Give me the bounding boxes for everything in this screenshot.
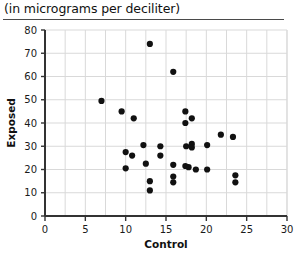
x-tick-label: 30 — [281, 224, 294, 235]
data-point — [170, 162, 176, 168]
data-point — [119, 108, 125, 114]
x-tick-label: 10 — [119, 224, 132, 235]
data-point — [193, 166, 199, 172]
data-point — [123, 165, 129, 171]
y-tick-label: 60 — [24, 71, 37, 82]
data-point — [131, 115, 137, 121]
y-tick-label: 20 — [24, 164, 37, 175]
y-axis-title: Exposed — [5, 98, 17, 148]
data-point — [170, 69, 176, 75]
data-point — [147, 187, 153, 193]
data-point — [185, 164, 191, 170]
data-point — [170, 179, 176, 185]
scatter-plot: 01020304050607080 051015202530 Exposed C… — [0, 22, 295, 254]
data-point — [140, 142, 146, 148]
data-point — [189, 144, 195, 150]
y-tick-label: 30 — [24, 141, 37, 152]
data-point-series — [98, 41, 238, 194]
data-point — [230, 134, 236, 140]
data-point — [232, 179, 238, 185]
data-point — [170, 173, 176, 179]
data-point — [129, 152, 135, 158]
data-point — [232, 172, 238, 178]
x-tick-label: 20 — [200, 224, 213, 235]
y-tick-label: 80 — [24, 25, 37, 36]
data-point — [147, 41, 153, 47]
data-point — [204, 166, 210, 172]
data-point — [204, 142, 210, 148]
figure-caption: (in micrograms per deciliter) — [4, 1, 180, 16]
y-tick-label: 50 — [24, 94, 37, 105]
y-tick-label: 10 — [24, 187, 37, 198]
data-point — [157, 152, 163, 158]
caption-divider — [3, 19, 284, 20]
data-point — [182, 108, 188, 114]
figure: (in micrograms per deciliter) 0102030405… — [0, 0, 295, 254]
x-tick-label: 25 — [240, 224, 253, 235]
data-point — [182, 120, 188, 126]
data-point — [123, 149, 129, 155]
data-point — [157, 143, 163, 149]
data-point — [143, 161, 149, 167]
x-axis-title: Control — [144, 238, 187, 250]
y-axis-tick-labels: 01020304050607080 — [24, 25, 37, 222]
x-tick-label: 15 — [160, 224, 173, 235]
y-tick-label: 70 — [24, 48, 37, 59]
x-axis-tick-labels: 051015202530 — [42, 224, 294, 235]
x-tick-label: 5 — [82, 224, 88, 235]
x-tick-label: 0 — [42, 224, 48, 235]
data-point — [183, 143, 189, 149]
data-point — [98, 98, 104, 104]
grid-lines — [45, 30, 287, 216]
data-point — [218, 132, 224, 138]
y-tick-label: 0 — [31, 211, 37, 222]
y-tick-label: 40 — [24, 118, 37, 129]
data-point — [147, 178, 153, 184]
data-point — [189, 115, 195, 121]
